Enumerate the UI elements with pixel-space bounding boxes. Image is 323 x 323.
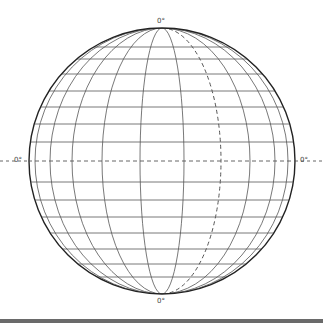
bottom-divider-bar: [0, 319, 323, 323]
globe-diagram: [0, 0, 323, 323]
meridian-line: [102, 28, 162, 294]
label-right: 0°: [300, 157, 308, 164]
label-left: 0°: [14, 157, 22, 164]
label-top: 0°: [157, 18, 165, 25]
graticule: [0, 28, 323, 294]
label-bottom: 0°: [157, 298, 165, 305]
meridian-line: [162, 28, 184, 294]
